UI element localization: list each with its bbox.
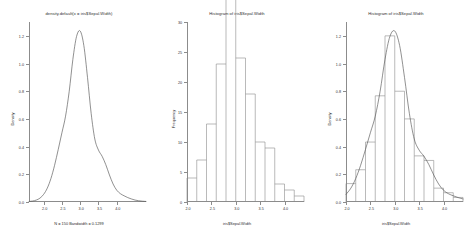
panel-1-x-tick-label: 3.0 xyxy=(79,207,84,211)
panel-1-x-tick-label: 2.5 xyxy=(60,207,65,211)
panel-2-ylabel: Frequency xyxy=(171,110,176,128)
panel-1-y-tick: 1.0 xyxy=(26,64,29,65)
panel-1-y-tick: 1.2 xyxy=(26,36,29,37)
panel-3-y-tick: 1.2 xyxy=(343,36,346,37)
panel-3-x-tick-label: 4.0 xyxy=(442,207,447,211)
panel-2-x-tick: 3.0 xyxy=(236,202,237,205)
panel-1-y-tick-label: 0.6 xyxy=(19,118,24,122)
panel-2-y-tick: 30 xyxy=(184,22,187,23)
panel-1-x-tick: 2.0 xyxy=(44,202,45,205)
panel-3-plot-region: 0.00.20.40.60.81.01.22.02.53.03.54.0 xyxy=(346,22,463,202)
panel-1-x-tick-label: 2.0 xyxy=(42,207,47,211)
panel-1-title: density.default(x = iris$Sepal.Width) xyxy=(0,11,158,16)
panel-2-y-tick-label: 15 xyxy=(178,111,182,115)
panel-2-y-tick-label: 20 xyxy=(178,81,182,85)
panel-3-y-tick-label: 1.2 xyxy=(336,35,341,39)
panel-3-y-tick-label: 1.0 xyxy=(336,63,341,67)
panel-2-x-tick: 4.0 xyxy=(285,202,286,205)
panel-3-y-tick-label: 0.2 xyxy=(336,173,341,177)
panel-3-y-tick: 0.8 xyxy=(343,91,346,92)
panel-2-y-tick-label: 10 xyxy=(178,141,182,145)
panel-3-y-tick-label: 0.8 xyxy=(336,90,341,94)
panel-2-y-tick-label: 25 xyxy=(178,51,182,55)
panel-1-x-tick: 3.0 xyxy=(80,202,81,205)
panel-3-y-tick-label: 0.6 xyxy=(336,118,341,122)
panel-3-title: Histogram of iris$Sepal.Width xyxy=(317,11,475,16)
panel-1-subtitle: N = 150 Bandwidth = 0.1299 xyxy=(0,221,158,226)
panel-3-y-tick-label: 0.4 xyxy=(336,146,341,150)
panel-2-x-tick: 3.5 xyxy=(260,202,261,205)
r-graphics-canvas: density.default(x = iris$Sepal.Width) De… xyxy=(0,0,475,238)
panel-3-y-tick-label: 0.0 xyxy=(336,201,341,205)
panel-3-y-tick: 0.2 xyxy=(343,174,346,175)
panel-2-y-tick: 20 xyxy=(184,82,187,83)
panel-1-x-tick: 3.5 xyxy=(98,202,99,205)
panel-3-y-tick: 1.0 xyxy=(343,64,346,65)
panel-2-xlabel: iris$Sepal.Width xyxy=(158,221,316,226)
panel-1-y-tick-label: 1.2 xyxy=(19,35,24,39)
panel-2-y-tick-label: 5 xyxy=(180,171,182,175)
panel-3-x-tick-label: 2.0 xyxy=(344,207,349,211)
panel-3-x-tick: 4.0 xyxy=(444,202,445,205)
panel-1-plot-region: 0.00.20.40.60.81.01.22.02.53.03.54.0 xyxy=(29,22,146,202)
panel-3-y-tick: 0.6 xyxy=(343,119,346,120)
panel-2-y-tick: 25 xyxy=(184,52,187,53)
panel-3-xlabel: iris$Sepal.Width xyxy=(317,221,475,226)
panel-2-y-tick-label: 30 xyxy=(178,21,182,25)
panel-1-curve-layer xyxy=(29,22,146,202)
panel-1-y-tick: 0.2 xyxy=(26,174,29,175)
panel-2-plot-region: 0510152025302.02.53.03.54.0 xyxy=(187,22,304,202)
panel-2-title: Histogram of iris$Sepal.Width xyxy=(158,11,316,16)
panel-3-x-tick: 2.5 xyxy=(370,202,371,205)
panel-3-y-tick: 0.4 xyxy=(343,147,346,148)
panel-2-x-tick-label: 2.5 xyxy=(210,207,215,211)
panel-3-x-tick-label: 2.5 xyxy=(369,207,374,211)
panel-2-x-tick: 2.5 xyxy=(211,202,212,205)
panel-3-x-tick-label: 3.0 xyxy=(393,207,398,211)
panel-histogram-density: Histogram of iris$Sepal.Width Density ir… xyxy=(317,0,475,238)
panel-2-x-tick-label: 3.5 xyxy=(259,207,264,211)
panel-1-ylabel: Density xyxy=(10,113,15,126)
panel-1-y-tick-label: 0.8 xyxy=(19,90,24,94)
panel-2-x-tick: 2.0 xyxy=(187,202,188,205)
panel-3-ylabel: Density xyxy=(327,113,332,126)
panel-1-x-tick-label: 4.0 xyxy=(115,207,120,211)
panel-histogram-frequency: Histogram of iris$Sepal.Width Frequency … xyxy=(158,0,316,238)
panel-2-x-tick-label: 3.0 xyxy=(234,207,239,211)
panel-1-y-tick-label: 0.2 xyxy=(19,173,24,177)
panel-1-x-tick: 2.5 xyxy=(62,202,63,205)
panel-1-x-tick-label: 3.5 xyxy=(97,207,102,211)
panel-1-y-tick: 0.4 xyxy=(26,147,29,148)
density-curve xyxy=(29,31,146,202)
panel-3-x-tick: 3.5 xyxy=(419,202,420,205)
panel-2-y-tick: 5 xyxy=(184,172,187,173)
panel-2-x-tick-label: 4.0 xyxy=(283,207,288,211)
panel-2-y-tick: 10 xyxy=(184,142,187,143)
panel-density-plot: density.default(x = iris$Sepal.Width) De… xyxy=(0,0,158,238)
panel-1-y-tick-label: 0.0 xyxy=(19,201,24,205)
panel-1-y-tick-label: 1.0 xyxy=(19,63,24,67)
panel-1-y-tick-label: 0.4 xyxy=(19,146,24,150)
panel-1-x-tick: 4.0 xyxy=(117,202,118,205)
panel-1-y-tick: 0.8 xyxy=(26,91,29,92)
panel-2-y-tick: 15 xyxy=(184,112,187,113)
panel-1-y-tick: 0.6 xyxy=(26,119,29,120)
panel-3-x-tick: 3.0 xyxy=(395,202,396,205)
panel-3-x-tick-label: 3.5 xyxy=(418,207,423,211)
panel-2-bars-layer xyxy=(187,22,304,202)
panel-1-y-tick: 0.0 xyxy=(26,202,29,203)
panel-2-x-tick-label: 2.0 xyxy=(185,207,190,211)
panel-3-x-tick: 2.0 xyxy=(346,202,347,205)
panel-3-bars-curve-layer xyxy=(346,22,463,202)
panel-2-y-tick-label: 0 xyxy=(180,201,182,205)
